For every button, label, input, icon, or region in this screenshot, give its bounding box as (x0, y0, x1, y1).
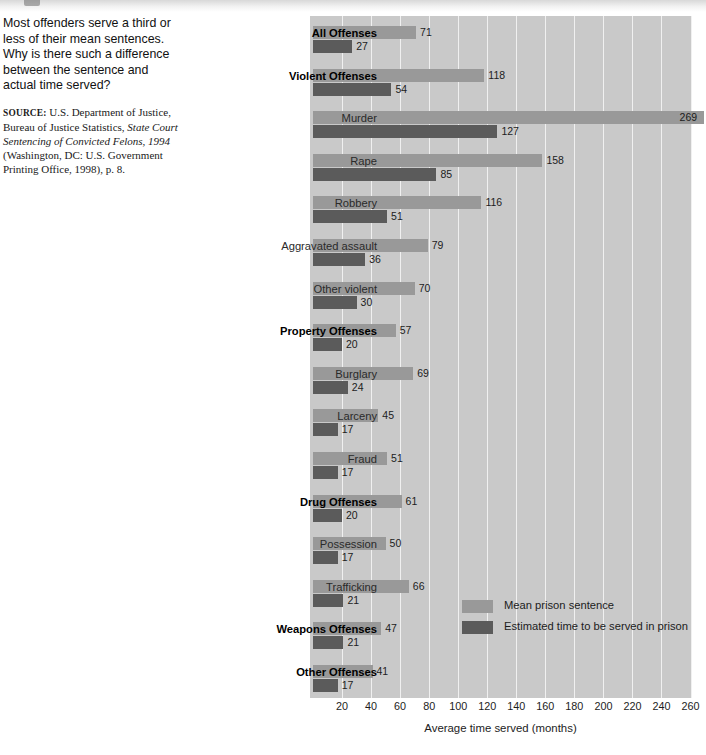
bar-value-label: 21 (347, 594, 359, 607)
x-tick-label: 220 (623, 700, 641, 712)
category-label: Aggravated assault (127, 240, 377, 252)
bar-value-label: 17 (342, 423, 354, 436)
bar-value-label: 116 (485, 196, 502, 209)
page-header-strip (0, 0, 706, 12)
bar-value-label: 61 (406, 495, 418, 508)
bar-value-label: 66 (413, 580, 425, 593)
bar-value-label: 20 (346, 509, 358, 522)
category-label: Violent Offenses (127, 70, 377, 82)
category-label: Fraud (127, 453, 377, 465)
x-tick-label: 100 (449, 700, 467, 712)
bar-value-label: 79 (432, 239, 444, 252)
category-label: Drug Offenses (127, 496, 377, 508)
bar-chart: 7127118542691271588511651793670305720692… (310, 16, 691, 698)
source-label: Source: (3, 108, 47, 118)
bar-time-served (313, 423, 338, 436)
category-label: Robbery (127, 197, 377, 209)
bar-time-served (313, 338, 342, 351)
bar-value-label: 69 (417, 367, 429, 380)
bar-time-served (313, 83, 391, 96)
category-label: Murder (127, 112, 377, 124)
bar-time-served (313, 551, 338, 564)
x-tick-label: 120 (478, 700, 496, 712)
bar-value-label: 51 (391, 210, 403, 223)
bar-value-label: 17 (342, 466, 354, 479)
header-glyph-icon (24, 0, 40, 6)
bar-value-label: 51 (391, 452, 403, 465)
bar-value-label: 57 (400, 324, 412, 337)
x-tick-label: 180 (565, 700, 583, 712)
category-label: Property Offenses (127, 325, 377, 337)
bar-value-label: 47 (385, 622, 397, 635)
bar-value-label: 36 (369, 253, 381, 266)
bar-value-label: 17 (342, 551, 354, 564)
bar-value-label: 27 (356, 40, 368, 53)
legend-swatch-served (462, 621, 493, 634)
bar-time-served (313, 210, 387, 223)
category-label: Other Offenses (127, 666, 377, 678)
category-label: Burglary (127, 368, 377, 380)
bar-time-served (313, 594, 343, 607)
bar-time-served (313, 296, 357, 309)
bar-value-label: 17 (342, 679, 354, 692)
bar-time-served (313, 636, 343, 649)
bar-time-served (313, 381, 348, 394)
x-tick-label: 140 (507, 700, 525, 712)
category-label: Rape (127, 155, 377, 167)
bar-value-label: 24 (352, 381, 364, 394)
bar-value-label: 54 (395, 83, 407, 96)
bar-value-label: 45 (382, 409, 394, 422)
bar-time-served (313, 679, 338, 692)
bar-time-served (313, 40, 352, 53)
bar-time-served (313, 509, 342, 522)
bar-time-served (313, 168, 436, 181)
legend-label-served: Estimated time to be served in prison (504, 620, 688, 632)
x-tick-label: 80 (423, 700, 435, 712)
bar-value-label: 41 (377, 665, 389, 678)
bar-value-label: 50 (390, 537, 402, 550)
category-label: Weapons Offenses (127, 623, 377, 635)
bar-time-served (313, 125, 497, 138)
bar-value-label: 71 (420, 26, 432, 39)
x-tick-label: 200 (594, 700, 612, 712)
legend-swatch-mean (462, 600, 493, 613)
x-tick-label: 160 (536, 700, 554, 712)
bar-value-label: 30 (361, 296, 373, 309)
caption-column: Most offenders serve a third or less of … (3, 16, 189, 176)
x-axis-title: Average time served (months) (310, 722, 691, 734)
bar-time-served (313, 253, 365, 266)
x-tick-label: 20 (336, 700, 348, 712)
bar-value-label: 158 (546, 154, 564, 167)
x-tick-label: 40 (365, 700, 377, 712)
category-label: Trafficking (127, 581, 377, 593)
bar-value-label: 269 (680, 111, 698, 124)
x-tick-label: 240 (652, 700, 670, 712)
x-tick-label: 260 (682, 700, 700, 712)
x-tick-label: 60 (394, 700, 406, 712)
legend-label-mean: Mean prison sentence (504, 599, 614, 611)
bar-value-label: 85 (440, 168, 452, 181)
bar-value-label: 127 (501, 125, 519, 138)
bar-value-label: 21 (347, 636, 359, 649)
bar-value-label: 20 (346, 338, 358, 351)
category-label: Larceny (127, 410, 377, 422)
category-label: Other violent (127, 283, 377, 295)
bar-value-label: 118 (488, 69, 505, 82)
category-label: Possession (127, 538, 377, 550)
bar-value-label: 70 (419, 282, 431, 295)
category-label: All Offenses (127, 27, 377, 39)
bar-time-served (313, 466, 338, 479)
